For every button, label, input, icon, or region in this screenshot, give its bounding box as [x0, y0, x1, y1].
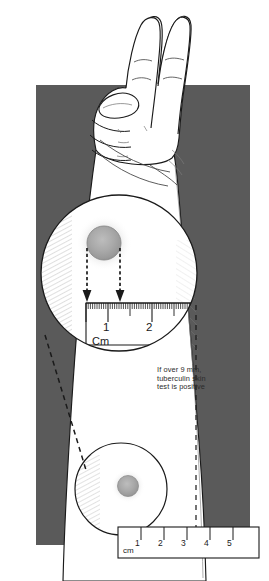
illustration-canvas: 1 2 Cm 1 2 3 4 5 cm — [0, 0, 269, 581]
bottom-ruler-tick-1: 1 — [135, 538, 140, 548]
positive-test-note: If over 9 mm, tuberculin skin test is po… — [157, 366, 206, 392]
bottom-ruler-tick-4: 4 — [204, 538, 209, 548]
induration-spot-upper — [87, 226, 121, 260]
lower-magnifier-circle — [75, 443, 167, 535]
induration-spot-lower — [118, 476, 139, 497]
top-ruler-tick-2: 2 — [146, 321, 152, 333]
note-line-3: test is positive — [157, 383, 206, 392]
bottom-ruler: 1 2 3 4 5 cm — [118, 527, 259, 558]
bottom-ruler-unit-label: cm — [123, 546, 134, 555]
tuberculin-skin-test-illustration: 1 2 Cm 1 2 3 4 5 cm — [0, 0, 269, 581]
bottom-ruler-tick-5: 5 — [227, 538, 232, 548]
bottom-ruler-tick-2: 2 — [158, 538, 163, 548]
top-ruler-unit-label: Cm — [92, 335, 109, 347]
bottom-ruler-tick-3: 3 — [181, 538, 186, 548]
top-ruler-tick-1: 1 — [103, 321, 109, 333]
